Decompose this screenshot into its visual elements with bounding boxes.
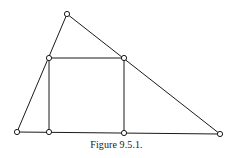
square-top-left-vertex <box>46 55 51 60</box>
square-top-right-vertex <box>121 55 126 60</box>
figure-vertices <box>14 11 222 136</box>
base-left-vertex <box>14 129 19 134</box>
base-right-vertex <box>217 131 222 136</box>
figure-edges <box>17 14 220 134</box>
figure-diagram <box>0 0 233 158</box>
square-bottom-right-vertex <box>121 130 126 135</box>
triangle-right-side-line <box>67 14 220 134</box>
square-bottom-left-vertex <box>46 129 51 134</box>
apex-vertex <box>64 11 69 16</box>
figure-caption: Figure 9.5.1. <box>0 139 233 150</box>
triangle-left-side-line <box>17 14 67 132</box>
